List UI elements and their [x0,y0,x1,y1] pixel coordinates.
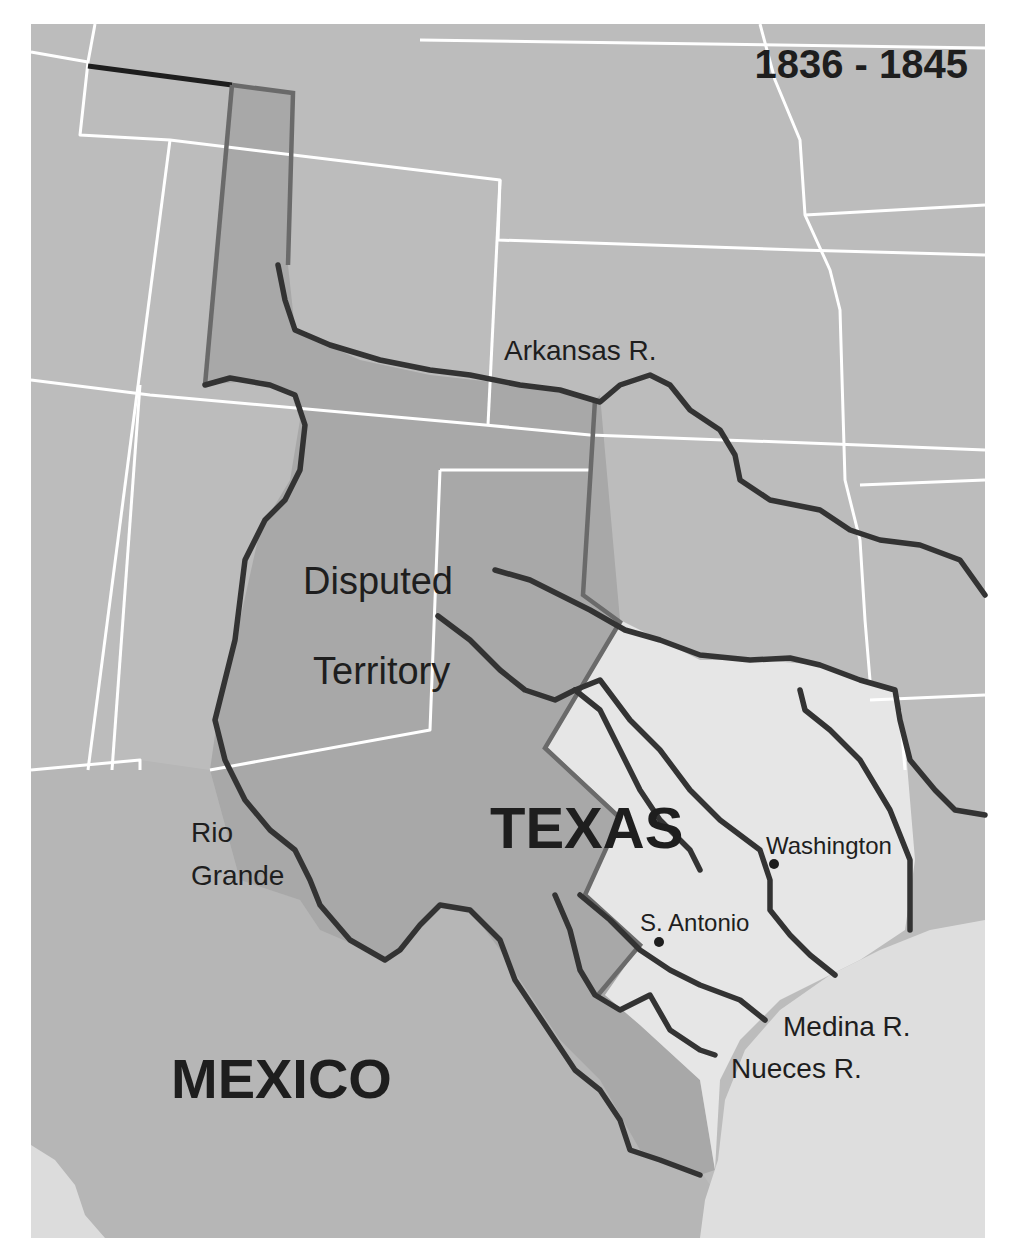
san-antonio-label: S. Antonio [640,909,749,936]
washington-label: Washington [766,832,892,859]
rio-grande-label-line2: Grande [191,860,284,891]
medina-river-label: Medina R. [783,1011,911,1042]
rio-grande-label-line1: Rio [191,817,233,848]
texas-map: 1836 - 1845 Arkansas R. Disputed Territo… [0,0,1010,1259]
mexico-label: MEXICO [171,1047,392,1110]
arkansas-river-label: Arkansas R. [504,335,657,366]
washington-city-marker [769,859,779,869]
nueces-river-label: Nueces R. [731,1053,862,1084]
san-antonio-city-marker [654,937,664,947]
map-title: 1836 - 1845 [754,42,968,86]
texas-label: TEXAS [490,795,683,860]
disputed-label-line2: Territory [313,650,450,692]
disputed-label-line1: Disputed [303,560,453,602]
